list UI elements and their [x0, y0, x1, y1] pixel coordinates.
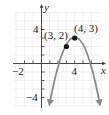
point-3-2 [64, 44, 69, 49]
point-label-3-2: (3, 2) [44, 29, 68, 42]
x-axis-label: x [100, 64, 106, 76]
x-tick-label-neg2: −2 [12, 65, 24, 77]
point-4-3 [72, 35, 77, 40]
y-tick-label-neg4: −4 [26, 91, 38, 103]
y-tick-label-4: 4 [33, 23, 39, 35]
parabola-graph: y x −2 4 4 −4 (3, 2) (4, 3) [0, 0, 109, 115]
x-tick-label-4: 4 [72, 65, 78, 77]
y-axis-label: y [43, 1, 49, 13]
point-label-4-3: (4, 3) [74, 22, 98, 35]
